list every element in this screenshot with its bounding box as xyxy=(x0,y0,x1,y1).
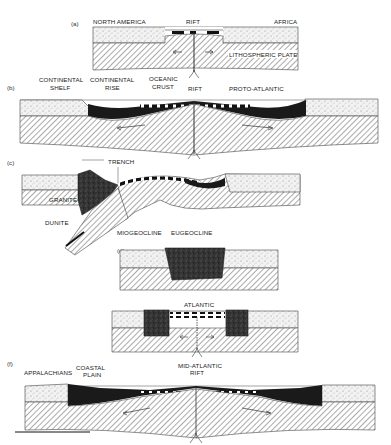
label-north-america: NORTH AMERICA xyxy=(93,18,147,25)
label-continental-rise-1: CONTINENTAL xyxy=(90,76,135,83)
label-rift-b: RIFT xyxy=(188,85,202,92)
label-coastal-plain-2: PLAIN xyxy=(83,371,101,378)
panel-c: (c) TRENCH GRANITE DUNITE xyxy=(7,158,300,255)
label-africa: AFRICA xyxy=(274,18,298,25)
panel-a: (a) NORTH AMERICA RIFT AFRICA LITHOSPHER… xyxy=(71,18,298,78)
label-eugeocline: EUGEOCLINE xyxy=(171,229,213,236)
label-continental-rise-2: RISE xyxy=(105,84,120,91)
label-proto-atlantic: PROTO-ATLANTIC xyxy=(229,85,284,92)
label-oceanic-crust-1: OCEANIC xyxy=(149,75,178,82)
wilson-cycle-diagram: (a) NORTH AMERICA RIFT AFRICA LITHOSPHER… xyxy=(0,0,391,445)
panel-e: (e) ATLANTIC xyxy=(112,301,298,357)
label-granite: GRANITE xyxy=(49,196,77,203)
label-dunite: DUNITE xyxy=(45,219,69,226)
label-mid-atlantic-rift-2: RIFT xyxy=(190,369,204,376)
label-miogeocline: MIOGEOCLINE xyxy=(117,229,162,236)
label-atlantic: ATLANTIC xyxy=(184,301,215,308)
label-coastal-plain-1: COASTAL xyxy=(76,364,106,371)
panel-f-tag: (f) xyxy=(7,360,13,367)
label-lithospheric-plate: LITHOSPHERIC PLATE xyxy=(229,51,297,58)
panel-c-tag: (c) xyxy=(7,159,14,166)
label-mid-atlantic-1: MID-ATLANTIC xyxy=(178,362,222,369)
label-appalachians: APPALACHIANS xyxy=(24,369,72,376)
panel-d: (d) MIOGEOCLINE EUGEOCLINE xyxy=(117,229,278,290)
label-continental-shelf-1: CONTINENTAL xyxy=(39,76,84,83)
label-continental-shelf-2: SHELF xyxy=(50,84,71,91)
panel-f: (f) APPALACHIANS COASTAL PLAIN MID-ATLAN… xyxy=(7,360,375,443)
label-rift-a: RIFT xyxy=(186,18,200,25)
label-oceanic-crust-2: CRUST xyxy=(152,83,174,90)
label-trench: TRENCH xyxy=(108,158,134,165)
panel-a-tag: (a) xyxy=(71,20,79,27)
panel-b-tag: (b) xyxy=(7,84,15,91)
panel-b: (b) CONTINENTAL SHELF CONTINENTAL RISE O… xyxy=(7,75,378,159)
